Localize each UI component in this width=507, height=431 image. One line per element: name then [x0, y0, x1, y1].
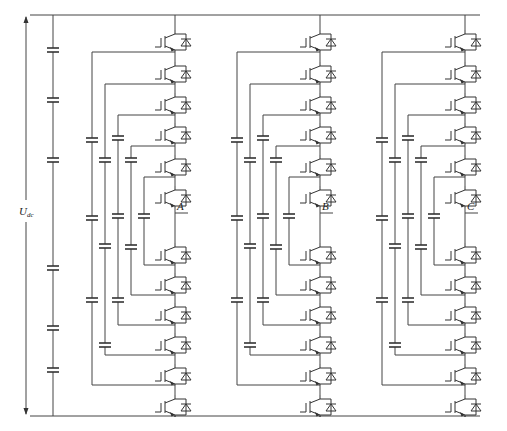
- igbt-switch: [155, 273, 191, 295]
- igbt-switch: [155, 364, 191, 386]
- igbt-switch: [445, 364, 481, 386]
- collector-line: [310, 307, 320, 311]
- phase-label-b: B: [322, 200, 329, 212]
- igbt-switch: [300, 273, 336, 295]
- igbt-switch: [300, 333, 336, 355]
- collector-line: [455, 190, 465, 194]
- collector-line: [455, 159, 465, 163]
- collector-line: [455, 337, 465, 341]
- collector-line: [455, 307, 465, 311]
- igbt-switch: [300, 30, 336, 52]
- igbt-switch: [445, 273, 481, 295]
- labels: Udc: [19, 205, 34, 219]
- igbt-switch: [300, 364, 336, 386]
- dc-link-capacitors: [47, 15, 59, 416]
- igbt-switch: [155, 30, 191, 52]
- collector-line: [310, 277, 320, 281]
- collector-line: [310, 66, 320, 70]
- collector-line: [455, 368, 465, 372]
- collector-line: [165, 66, 175, 70]
- igbt-switch: [445, 93, 481, 115]
- collector-line: [455, 277, 465, 281]
- phase-leg-a: A: [86, 15, 191, 417]
- collector-line: [310, 399, 320, 403]
- collector-line: [455, 66, 465, 70]
- collector-line: [165, 247, 175, 251]
- collector-line: [165, 127, 175, 131]
- igbt-switch: [155, 303, 191, 325]
- collector-line: [455, 34, 465, 38]
- collector-line: [310, 159, 320, 163]
- collector-line: [310, 190, 320, 194]
- igbt-switch: [155, 186, 191, 208]
- collector-line: [310, 34, 320, 38]
- igbt-switch: [155, 93, 191, 115]
- arrow-up-icon: [24, 16, 29, 23]
- phase-leg-b: B: [231, 15, 336, 417]
- igbt-switch: [155, 395, 191, 417]
- igbt-switch: [300, 186, 336, 208]
- igbt-switch: [445, 395, 481, 417]
- igbt-switch: [300, 243, 336, 265]
- collector-line: [165, 34, 175, 38]
- igbt-switch: [155, 62, 191, 84]
- collector-line: [165, 190, 175, 194]
- igbt-switch: [300, 62, 336, 84]
- collector-line: [165, 159, 175, 163]
- igbt-switch: [155, 243, 191, 265]
- phase-label-a: A: [176, 200, 184, 212]
- phase-legs: ABC: [86, 15, 481, 417]
- igbt-switch: [155, 333, 191, 355]
- multilevel-inverter-diagram: ABC Udc: [0, 0, 507, 431]
- collector-line: [165, 277, 175, 281]
- igbt-switch: [155, 155, 191, 177]
- igbt-switch: [445, 30, 481, 52]
- collector-line: [165, 337, 175, 341]
- collector-line: [455, 97, 465, 101]
- igbt-switch: [445, 62, 481, 84]
- phase-label-c: C: [467, 200, 475, 212]
- igbt-switch: [300, 155, 336, 177]
- collector-line: [455, 247, 465, 251]
- collector-line: [165, 399, 175, 403]
- igbt-switch: [155, 123, 191, 145]
- collector-line: [310, 368, 320, 372]
- phase-leg-c: C: [376, 15, 481, 417]
- igbt-switch: [445, 333, 481, 355]
- collector-line: [310, 97, 320, 101]
- collector-line: [165, 307, 175, 311]
- igbt-switch: [300, 123, 336, 145]
- igbt-switch: [445, 186, 481, 208]
- igbt-switch: [445, 303, 481, 325]
- igbt-switch: [445, 155, 481, 177]
- dc-voltage-label: Udc: [19, 205, 34, 219]
- igbt-switch: [445, 123, 481, 145]
- igbt-switch: [445, 243, 481, 265]
- collector-line: [455, 127, 465, 131]
- igbt-switch: [300, 93, 336, 115]
- collector-line: [455, 399, 465, 403]
- collector-line: [165, 97, 175, 101]
- collector-line: [165, 368, 175, 372]
- igbt-switch: [300, 395, 336, 417]
- collector-line: [310, 127, 320, 131]
- igbt-switch: [300, 303, 336, 325]
- arrow-down-icon: [24, 408, 29, 415]
- collector-line: [310, 247, 320, 251]
- collector-line: [310, 337, 320, 341]
